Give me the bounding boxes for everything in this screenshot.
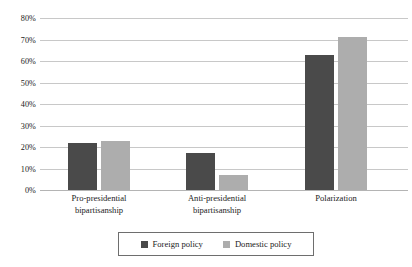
bar-chart: 0%10%20%30%40%50%60%70%80% Pro-president… [0,0,412,267]
x-axis-category-labels: Pro-presidential bipartisanshipAnti-pres… [0,193,412,227]
x-axis-category-label: Pro-presidential bipartisanship [39,193,159,216]
bar [186,153,215,190]
bar [68,143,97,190]
plot-area: 0%10%20%30%40%50%60%70%80% [0,0,412,200]
bar [338,37,367,190]
legend-item: Foreign policy [141,239,203,249]
legend-swatch-icon [141,241,148,248]
bar [219,175,248,190]
chart-legend: Foreign policyDomestic policy [118,232,314,256]
bars-layer [0,0,412,200]
bar [101,141,130,190]
bar [305,55,334,190]
x-axis-category-label: Polarization [276,193,396,205]
x-axis-category-label: Anti-presidential bipartisanship [157,193,277,216]
legend-label: Foreign policy [153,239,203,249]
legend-item: Domestic policy [223,239,292,249]
legend-label: Domestic policy [235,239,292,249]
legend-swatch-icon [223,241,230,248]
